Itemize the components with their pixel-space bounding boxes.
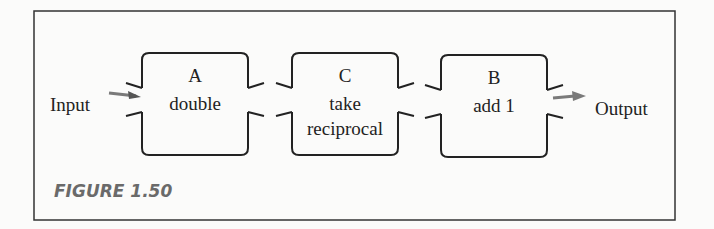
output-arrow-shaft bbox=[553, 96, 575, 98]
box-letter: B bbox=[488, 67, 501, 88]
figure-caption: FIGURE 1.50 bbox=[54, 181, 172, 201]
input-arrow-head bbox=[128, 91, 141, 99]
function-box-a: Adouble bbox=[126, 53, 264, 155]
box-letter: C bbox=[339, 65, 352, 86]
box-operation: take bbox=[329, 93, 361, 114]
box-operation: double bbox=[169, 93, 221, 114]
box-operation-line2: reciprocal bbox=[307, 118, 383, 139]
function-machine-diagram: AdoubleCtakereciprocalBadd 1 Input Outpu… bbox=[0, 0, 714, 229]
output-label: Output bbox=[595, 98, 649, 119]
box-operation: add 1 bbox=[473, 95, 515, 116]
input-label: Input bbox=[50, 94, 91, 115]
output-arrow-head bbox=[572, 91, 586, 101]
function-box-b: Badd 1 bbox=[425, 55, 563, 157]
function-box-c: Ctakereciprocal bbox=[276, 53, 414, 155]
box-letter: A bbox=[188, 65, 202, 86]
